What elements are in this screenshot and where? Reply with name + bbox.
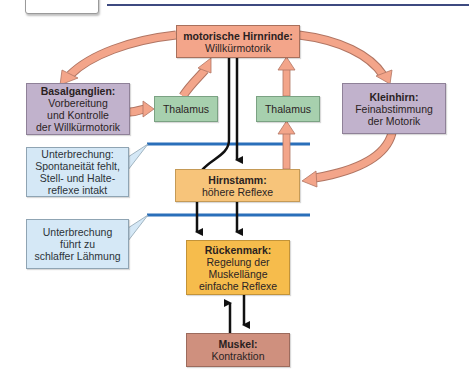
node-subtitle: der Willkürmotorik bbox=[36, 121, 120, 133]
node-subtitle: höhere Reflexe bbox=[202, 186, 273, 198]
node-label: Thalamus bbox=[265, 103, 311, 115]
node-subtitle: Regelung der bbox=[206, 256, 269, 268]
node-basal-ganglia: Basalganglien: Vorbereitung und Kontroll… bbox=[26, 83, 130, 135]
callout-pointer-lower bbox=[128, 215, 148, 241]
callout-line: Unterbrechung: bbox=[41, 148, 113, 160]
arrow-cortex-to-basal bbox=[60, 35, 176, 85]
node-subtitle: Muskellänge bbox=[209, 268, 268, 280]
node-label: Thalamus bbox=[163, 103, 209, 115]
arrow-cortex-to-cerebellum bbox=[299, 35, 392, 84]
node-thalamus-left: Thalamus bbox=[154, 96, 218, 122]
callout-line: reflexe intakt bbox=[48, 184, 108, 196]
node-subtitle: Kontraktion bbox=[211, 350, 264, 362]
node-thalamus-right: Thalamus bbox=[256, 96, 320, 122]
node-subtitle: Feinabstimmung bbox=[355, 103, 433, 115]
node-subtitle: Willkürmotorik bbox=[205, 42, 271, 54]
node-subtitle: einfache Reflexe bbox=[199, 280, 277, 292]
node-subtitle: und Kontrolle bbox=[47, 109, 109, 121]
node-subtitle: der Motorik bbox=[368, 115, 421, 127]
node-title: motorische Hirnrinde: bbox=[183, 30, 293, 42]
callout-upper-interruption: Unterbrechung: Spontaneität fehlt, Stell… bbox=[26, 147, 129, 197]
callout-line: Spontaneität fehlt, bbox=[35, 160, 120, 172]
node-muscle: Muskel: Kontraktion bbox=[186, 333, 290, 367]
callout-line: schlaffer Lähmung bbox=[34, 250, 120, 262]
arrow-thalamus-right-to-cortex bbox=[278, 57, 295, 96]
callout-line: führt zu bbox=[60, 238, 95, 250]
callout-pointer-upper bbox=[128, 144, 148, 170]
node-subtitle: Vorbereitung bbox=[48, 97, 108, 109]
node-brainstem: Hirnstamm: höhere Reflexe bbox=[175, 169, 300, 202]
node-title: Basalganglien: bbox=[41, 85, 116, 97]
callout-lower-interruption: Unterbrechung führt zu schlaffer Lähmung bbox=[26, 219, 129, 269]
arrow-basal-to-thalamus bbox=[130, 101, 154, 117]
node-title: Muskel: bbox=[218, 338, 257, 350]
arrow-thalamus-left-to-cortex bbox=[183, 58, 211, 96]
callout-line: Unterbrechung bbox=[43, 226, 112, 238]
node-motor-cortex: motorische Hirnrinde: Willkürmotorik bbox=[176, 25, 300, 58]
node-title: Rückenmark: bbox=[205, 244, 272, 256]
node-spinal-cord: Rückenmark: Regelung der Muskellänge ein… bbox=[186, 240, 290, 295]
node-cerebellum: Kleinhirn: Feinabstimmung der Motorik bbox=[342, 83, 446, 134]
node-title: Hirnstamm: bbox=[208, 174, 266, 186]
callout-line: Stell- und Halte- bbox=[40, 172, 115, 184]
node-title: Kleinhirn: bbox=[370, 91, 419, 103]
arrow-cerebellum-to-brainstem bbox=[302, 133, 392, 187]
motor-system-diagram: motorische Hirnrinde: Willkürmotorik Bas… bbox=[0, 0, 469, 372]
